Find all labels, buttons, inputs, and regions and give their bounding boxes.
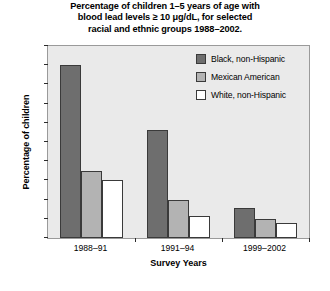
bar: [276, 223, 297, 238]
bar: [147, 130, 168, 238]
legend-label: Black, non-Hispanic: [211, 54, 285, 64]
chart-title-line-1: Percentage of children 1–5 years of age …: [18, 1, 312, 12]
x-axis-tick-label: 1988–91: [46, 243, 136, 253]
chart-title: Percentage of children 1–5 years of age …: [18, 1, 312, 35]
legend-item: Mexican American: [196, 68, 312, 86]
x-axis-label: Survey Years: [47, 258, 310, 268]
legend-label: Mexican American: [211, 72, 280, 82]
bar: [168, 200, 189, 238]
bar: [102, 180, 123, 238]
x-axis-tick-label: 1999–2002: [220, 243, 310, 253]
legend-swatch-mexican-american: [196, 72, 206, 82]
bar: [81, 171, 102, 238]
x-axis-tick-label: 1991–94: [133, 243, 223, 253]
chart-figure: Percentage of children 1–5 years of age …: [0, 0, 330, 291]
legend-label: White, non-Hispanic: [211, 90, 286, 100]
legend-item: White, non-Hispanic: [196, 86, 312, 104]
legend-swatch-black-non-hispanic: [196, 54, 206, 64]
chart-title-line-2: blood lead levels ≥ 10 μg/dL, for select…: [18, 12, 312, 23]
y-axis-tick: [44, 160, 48, 161]
x-axis-tick: [222, 238, 223, 242]
legend-item: Black, non-Hispanic: [196, 50, 312, 68]
y-axis-tick: [44, 64, 48, 65]
y-axis-tick: [44, 199, 48, 200]
y-axis-tick: [44, 179, 48, 180]
y-axis-label: Percentage of children: [21, 62, 31, 222]
y-axis-tick: [44, 122, 48, 123]
bar: [255, 219, 276, 238]
chart-legend: Black, non-Hispanic Mexican American Whi…: [196, 50, 312, 104]
y-axis-tick: [44, 103, 48, 104]
y-axis-tick: [44, 141, 48, 142]
x-axis-tick: [309, 238, 310, 242]
x-axis-tick: [135, 238, 136, 242]
chart-title-line-3: racial and ethnic groups 1988–2002.: [18, 24, 312, 35]
bar: [60, 65, 81, 238]
legend-swatch-white-non-hispanic: [196, 90, 206, 100]
bar: [189, 216, 210, 238]
y-axis-tick: [44, 218, 48, 219]
y-axis-tick: [44, 45, 48, 46]
bar: [234, 208, 255, 238]
y-axis-tick: [44, 83, 48, 84]
y-axis-tick: [44, 237, 48, 238]
